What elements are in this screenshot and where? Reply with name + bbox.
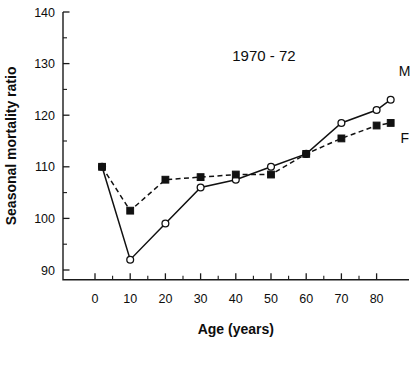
x-tick-label: 80 — [370, 292, 384, 306]
y-tick-label: 100 — [34, 212, 55, 226]
x-tick-label: 40 — [229, 292, 243, 306]
x-tick-label: 30 — [194, 292, 208, 306]
series-line-M — [102, 100, 391, 260]
data-point-F — [232, 171, 239, 178]
data-point-F — [387, 120, 394, 127]
x-tick-label: 50 — [264, 292, 278, 306]
series-label-M: M — [399, 63, 411, 79]
data-point-M — [127, 256, 134, 263]
y-tick-label: 120 — [34, 109, 55, 123]
series-line-F — [102, 123, 391, 211]
y-tick-label: 130 — [34, 57, 55, 71]
x-tick-label: 60 — [299, 292, 313, 306]
data-point-M — [373, 107, 380, 114]
chart-title: 1970 - 72 — [232, 47, 295, 64]
data-point-F — [99, 163, 106, 170]
data-point-F — [127, 207, 134, 214]
x-tick-label: 10 — [123, 292, 137, 306]
data-point-F — [338, 135, 345, 142]
series-label-F: F — [400, 130, 409, 146]
x-axis-title: Age (years) — [198, 321, 274, 337]
data-point-M — [387, 96, 394, 103]
data-point-M — [268, 163, 275, 170]
x-tick-label: 70 — [334, 292, 348, 306]
data-point-F — [162, 176, 169, 183]
data-point-F — [303, 151, 310, 158]
data-point-F — [373, 122, 380, 129]
data-point-M — [338, 120, 345, 127]
seasonal-mortality-chart: 9010011012013014001020304050607080Age (y… — [0, 0, 417, 388]
x-tick-label: 0 — [92, 292, 99, 306]
chart-canvas: 9010011012013014001020304050607080Age (y… — [0, 0, 417, 388]
data-point-M — [197, 184, 204, 191]
data-point-M — [162, 220, 169, 227]
y-tick-label: 90 — [41, 264, 55, 278]
x-tick-label: 20 — [158, 292, 172, 306]
y-axis-title: Seasonal mortality ratio — [3, 67, 19, 226]
y-tick-label: 110 — [35, 160, 55, 174]
y-tick-label: 140 — [34, 6, 55, 20]
data-point-F — [268, 171, 275, 178]
data-point-F — [197, 174, 204, 181]
